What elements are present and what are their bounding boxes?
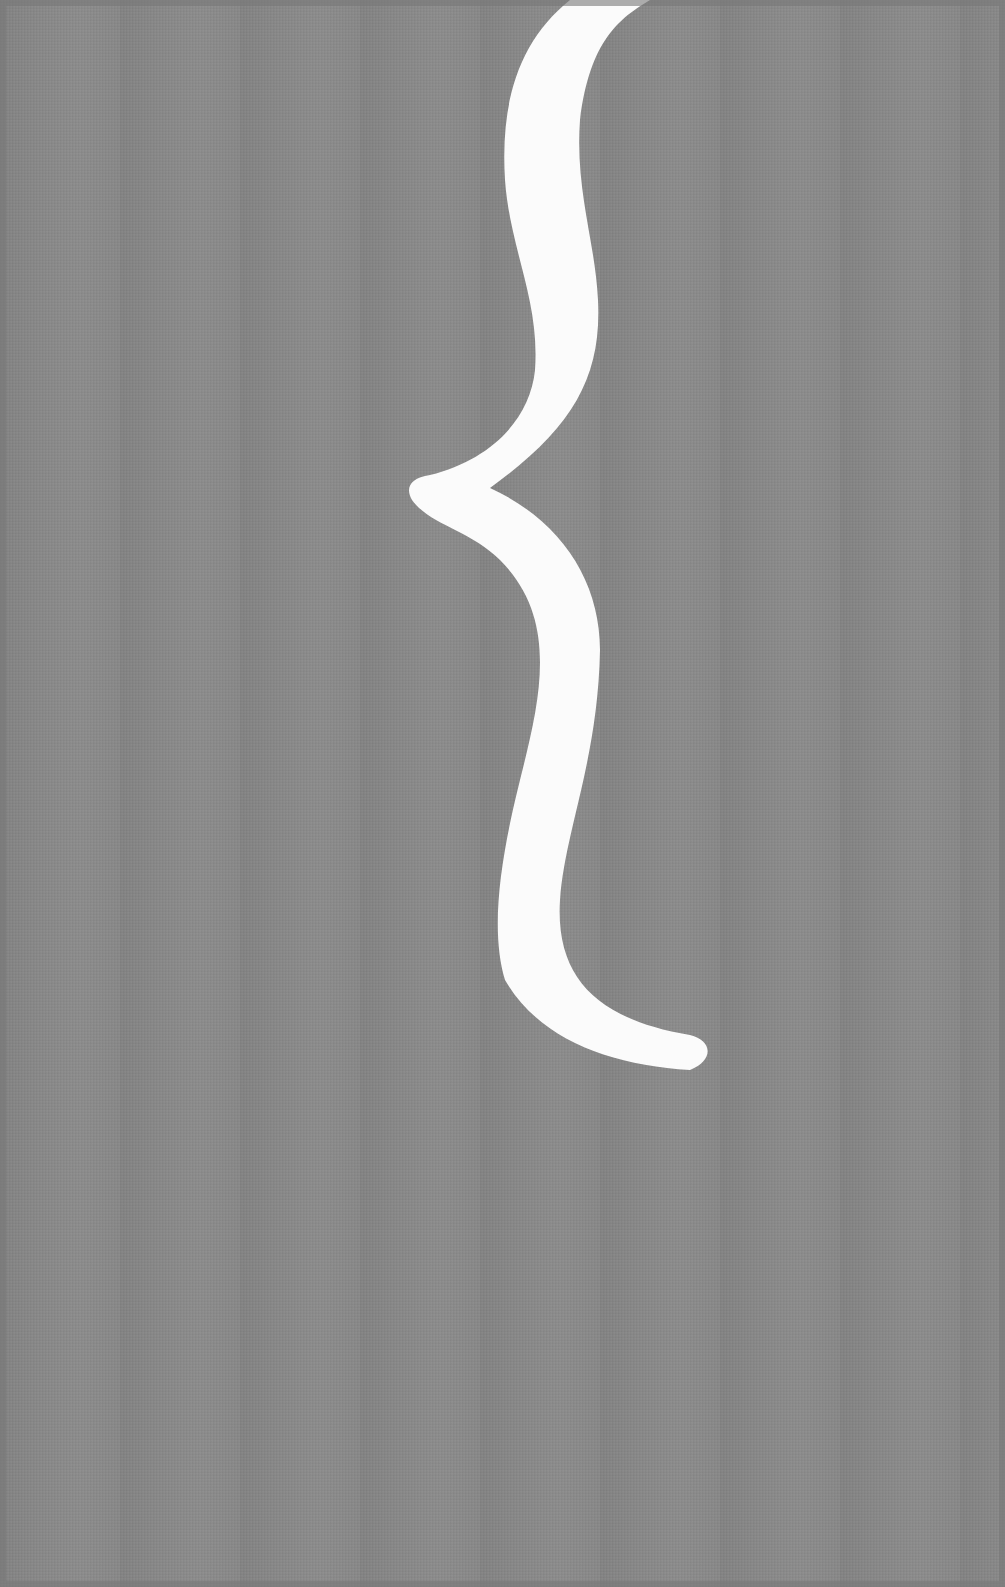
textured-background [0, 0, 1005, 1587]
curly-brace-icon [0, 0, 1005, 1587]
